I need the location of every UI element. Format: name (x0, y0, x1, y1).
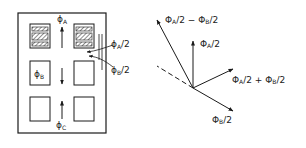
winding-middle (32, 33, 48, 40)
window-middle-right (74, 61, 94, 85)
winding-top (32, 27, 48, 31)
window-lower-right (74, 97, 94, 121)
window-upper-left-wound (30, 24, 50, 48)
phasor-b-half (193, 88, 233, 111)
label-phi-c: ϕC (56, 120, 66, 131)
label-difference: ΦA/2 − ΦB/2 (165, 15, 218, 25)
winding-bottom (32, 42, 48, 46)
label-phi-a: ϕA (57, 14, 68, 25)
magnetic-core: ϕA ϕB ϕC ϕA/2 ϕB/2 (18, 13, 130, 133)
label-a-half: ΦA/2 (200, 39, 220, 49)
diagram-canvas: ϕA ϕB ϕC ϕA/2 ϕB/2 ΦA/2 − ΦB/2 ΦA/2 ΦA/2… (0, 0, 306, 148)
label-phi-b: ϕB (34, 69, 44, 80)
window-lower-left (30, 97, 50, 121)
phasor-difference (157, 20, 193, 88)
label-phi-a-half: ϕA/2 (111, 39, 130, 50)
label-b-half: ΦB/2 (212, 115, 232, 125)
winding-middle (76, 33, 92, 40)
label-sum: ΦA/2 + ΦB/2 (232, 75, 285, 85)
label-phi-b-half: ϕB/2 (111, 65, 130, 76)
winding-top (76, 27, 92, 31)
phasor-diagram: ΦA/2 − ΦB/2 ΦA/2 ΦA/2 + ΦB/2 ΦB/2 (157, 15, 285, 125)
window-upper-right-wound (74, 24, 94, 48)
phasor-sum (193, 69, 233, 88)
winding-bottom (76, 42, 92, 46)
